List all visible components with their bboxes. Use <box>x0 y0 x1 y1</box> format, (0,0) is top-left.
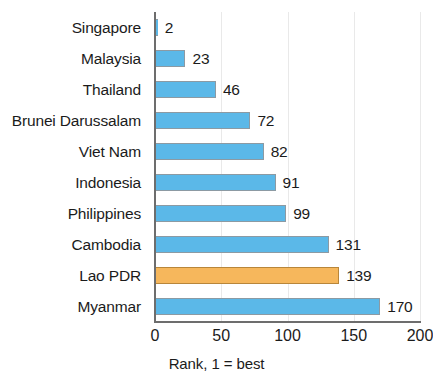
category-row: Cambodia <box>0 229 148 260</box>
x-axis-tick-label: 100 <box>274 328 301 344</box>
bar-value-label: 2 <box>165 20 173 36</box>
x-axis-title: Rank, 1 = best <box>0 356 433 371</box>
gridline <box>420 12 421 322</box>
category-label: Lao PDR <box>79 268 141 284</box>
x-axis-tick-label: 50 <box>212 328 230 344</box>
category-label: Malaysia <box>81 51 141 67</box>
category-label: Cambodia <box>72 237 141 253</box>
bar-value-label: 131 <box>336 237 361 253</box>
category-row: Lao PDR <box>0 260 148 291</box>
bar <box>155 81 216 98</box>
category-axis-labels: Singapore Malaysia Thailand Brunei Darus… <box>0 12 148 322</box>
y-axis-line <box>154 12 156 322</box>
x-axis-tick-labels: 050100150200 <box>0 328 433 350</box>
bar-row: 72 <box>155 105 420 136</box>
bar-value-label: 82 <box>271 144 288 160</box>
category-row: Singapore <box>0 12 148 43</box>
bar-row: 46 <box>155 74 420 105</box>
bar <box>155 112 250 129</box>
category-row: Indonesia <box>0 167 148 198</box>
x-axis-line <box>154 321 421 323</box>
bar-series: 2234672829199131139170 <box>155 12 420 322</box>
category-row: Myanmar <box>0 291 148 322</box>
bar-value-label: 23 <box>192 51 209 67</box>
x-axis-tick-label: 0 <box>151 328 160 344</box>
x-axis-tick-label: 200 <box>407 328 433 344</box>
bar-row: 131 <box>155 229 420 260</box>
plot-area: 2234672829199131139170 <box>155 12 420 322</box>
bar <box>155 205 286 222</box>
category-row: Malaysia <box>0 43 148 74</box>
bar <box>155 267 339 284</box>
category-label: Myanmar <box>77 299 141 315</box>
bar-row: 99 <box>155 198 420 229</box>
bar-row: 139 <box>155 260 420 291</box>
bar-value-label: 72 <box>257 113 274 129</box>
bar <box>155 174 276 191</box>
bar <box>155 50 185 67</box>
category-label: Thailand <box>83 82 141 98</box>
category-row: Thailand <box>0 74 148 105</box>
category-label: Philippines <box>68 206 141 222</box>
category-row: Brunei Darussalam <box>0 105 148 136</box>
bar-value-label: 139 <box>346 268 371 284</box>
bar-row: 82 <box>155 136 420 167</box>
bar-row: 91 <box>155 167 420 198</box>
category-row: Philippines <box>0 198 148 229</box>
bar-row: 170 <box>155 291 420 322</box>
bar-row: 2 <box>155 12 420 43</box>
bar <box>155 236 329 253</box>
x-axis-tick-label: 150 <box>340 328 367 344</box>
bar-row: 23 <box>155 43 420 74</box>
bar-value-label: 99 <box>293 206 310 222</box>
category-label: Singapore <box>72 20 141 36</box>
bar <box>155 298 380 315</box>
category-label: Indonesia <box>75 175 141 191</box>
bar <box>155 143 264 160</box>
category-label: Viet Nam <box>79 144 141 160</box>
bar-value-label: 170 <box>387 299 412 315</box>
category-row: Viet Nam <box>0 136 148 167</box>
bar-value-label: 46 <box>223 82 240 98</box>
bar-chart: Singapore Malaysia Thailand Brunei Darus… <box>0 0 433 378</box>
category-label: Brunei Darussalam <box>12 113 141 129</box>
bar-value-label: 91 <box>283 175 300 191</box>
